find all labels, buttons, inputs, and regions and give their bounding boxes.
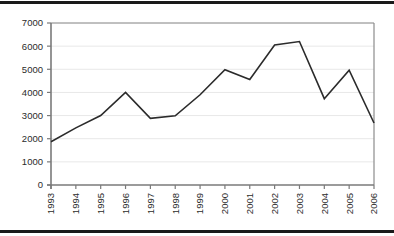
bottom-rule bbox=[0, 230, 394, 233]
x-tick-label: 1993 bbox=[45, 193, 56, 214]
y-tick-label: 3000 bbox=[22, 110, 43, 121]
x-tick-label: 2000 bbox=[219, 193, 230, 214]
x-tick-label: 1994 bbox=[70, 193, 81, 214]
y-tick-label: 4000 bbox=[22, 87, 43, 98]
x-tick-label: 1996 bbox=[120, 193, 131, 214]
y-tick-label: 5000 bbox=[22, 64, 43, 75]
x-tick-label: 2004 bbox=[319, 193, 330, 214]
y-tick-label: 1000 bbox=[22, 156, 43, 167]
x-tick-label: 2006 bbox=[368, 193, 379, 214]
x-tick-label: 2002 bbox=[269, 193, 280, 214]
x-tick-label: 1995 bbox=[95, 193, 106, 214]
x-tick-label: 2001 bbox=[244, 193, 255, 214]
x-tick-label: 1997 bbox=[145, 193, 156, 214]
x-tick-label: 1998 bbox=[170, 193, 181, 214]
line-chart-figure: 01000200030004000500060007000 1993199419… bbox=[0, 0, 394, 236]
x-tick-label: 2003 bbox=[294, 193, 305, 214]
y-tick-label: 0 bbox=[38, 179, 43, 190]
chart-canvas: 01000200030004000500060007000 1993199419… bbox=[0, 4, 394, 230]
y-tick-label: 6000 bbox=[22, 41, 43, 52]
y-tick-label: 7000 bbox=[22, 17, 43, 28]
y-tick-label: 2000 bbox=[22, 133, 43, 144]
x-tick-label: 1999 bbox=[194, 193, 205, 214]
x-tick-label: 2005 bbox=[344, 193, 355, 214]
